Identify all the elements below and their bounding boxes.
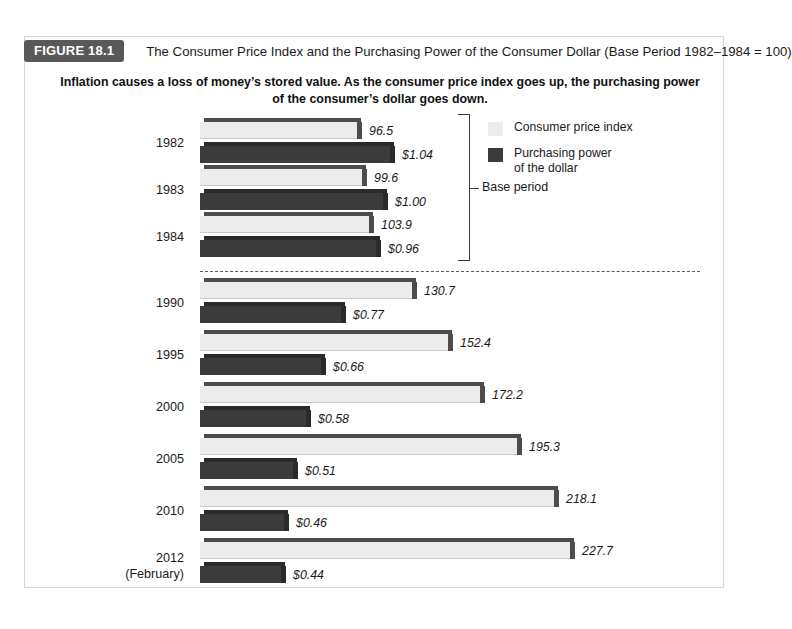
- bar-consumer-price-index: [200, 538, 570, 555]
- year-label-line1: 1984: [156, 230, 184, 244]
- bar-value-consumer-price-index: 96.5: [369, 124, 393, 138]
- year-label-line2: (February): [104, 567, 184, 583]
- bar-value-purchasing-power: $0.51: [305, 464, 336, 478]
- bar-consumer-price-index: [200, 278, 412, 295]
- bar-purchasing-power: [200, 510, 284, 527]
- bar-end-cap: [341, 306, 346, 323]
- bar-end-cap: [570, 542, 575, 559]
- bar-value-consumer-price-index: 99.6: [374, 171, 398, 185]
- bar-chart: 96.5$1.04198299.6$1.001983103.9$0.961984…: [24, 36, 724, 588]
- year-label-line1: 1983: [156, 183, 184, 197]
- bar-front-face: [200, 566, 281, 583]
- legend-item-purchasing-power: Purchasing power of the dollar: [488, 146, 633, 177]
- legend-swatch-dark: [488, 148, 503, 162]
- bar-value-purchasing-power: $1.00: [395, 195, 426, 209]
- bar-front-face: [200, 514, 284, 531]
- base-period-bracket: [458, 114, 470, 261]
- bar-value-purchasing-power: $0.77: [353, 308, 384, 322]
- bar-value-purchasing-power: $0.58: [318, 412, 349, 426]
- bar-end-cap: [306, 410, 311, 427]
- bar-value-purchasing-power: $0.46: [296, 516, 327, 530]
- bar-purchasing-power: [200, 142, 390, 159]
- bar-value-consumer-price-index: 195.3: [529, 440, 560, 454]
- bar-end-cap: [369, 216, 374, 233]
- bar-front-face: [200, 410, 306, 427]
- bar-consumer-price-index: [200, 330, 448, 347]
- bar-front-face: [200, 216, 369, 233]
- bar-front-face: [200, 240, 376, 257]
- bar-value-purchasing-power: $0.66: [333, 360, 364, 374]
- bar-end-cap: [284, 514, 289, 531]
- year-label: 1984: [104, 230, 184, 246]
- bar-value-consumer-price-index: 152.4: [460, 336, 491, 350]
- bar-purchasing-power: [200, 189, 383, 206]
- legend-item-consumer-price-index: Consumer price index: [488, 120, 633, 136]
- bar-end-cap: [480, 386, 485, 403]
- legend-label-consumer-price-index: Consumer price index: [514, 120, 633, 136]
- bar-front-face: [200, 146, 390, 163]
- legend-swatch-light: [488, 122, 503, 136]
- legend-label-purchasing-power: Purchasing power of the dollar: [514, 146, 633, 177]
- year-label-line1: 2005: [156, 452, 184, 466]
- bar-value-consumer-price-index: 130.7: [424, 284, 455, 298]
- bar-front-face: [200, 542, 570, 559]
- bar-purchasing-power: [200, 302, 341, 319]
- base-period-divider: [200, 271, 700, 272]
- bar-front-face: [200, 282, 412, 299]
- year-label: 1982: [104, 136, 184, 152]
- bar-front-face: [200, 438, 517, 455]
- bar-end-cap: [448, 334, 453, 351]
- bar-front-face: [200, 334, 448, 351]
- year-label-line1: 2000: [156, 400, 184, 414]
- year-label: 1990: [104, 296, 184, 312]
- year-label-line1: 1995: [156, 348, 184, 362]
- year-label-line1: 1982: [156, 136, 184, 150]
- bar-value-purchasing-power: $1.04: [402, 148, 433, 162]
- bar-front-face: [200, 169, 362, 186]
- year-label: 2010: [104, 504, 184, 520]
- bar-value-purchasing-power: $0.96: [388, 242, 419, 256]
- bar-purchasing-power: [200, 458, 293, 475]
- bar-end-cap: [390, 146, 395, 163]
- bar-end-cap: [517, 438, 522, 455]
- bar-end-cap: [412, 282, 417, 299]
- base-period-bracket-tick: [470, 188, 479, 189]
- bar-end-cap: [376, 240, 381, 257]
- bar-value-purchasing-power: $0.44: [293, 568, 324, 582]
- chart-legend: Consumer price index Purchasing power of…: [488, 120, 633, 187]
- year-label-line1: 2012: [156, 551, 184, 565]
- bar-front-face: [200, 386, 480, 403]
- bar-end-cap: [383, 193, 388, 210]
- bar-end-cap: [554, 490, 559, 507]
- bar-value-consumer-price-index: 103.9: [381, 218, 412, 232]
- bar-end-cap: [281, 566, 286, 583]
- bar-front-face: [200, 358, 321, 375]
- bar-end-cap: [293, 462, 298, 479]
- bar-purchasing-power: [200, 562, 281, 579]
- bar-consumer-price-index: [200, 434, 517, 451]
- year-label-line1: 2010: [156, 504, 184, 518]
- bar-purchasing-power: [200, 354, 321, 371]
- bar-end-cap: [357, 122, 362, 139]
- bar-purchasing-power: [200, 406, 306, 423]
- year-label: 2012(February): [104, 551, 184, 582]
- bar-consumer-price-index: [200, 486, 554, 503]
- bar-consumer-price-index: [200, 382, 480, 399]
- bar-consumer-price-index: [200, 212, 369, 229]
- bar-end-cap: [321, 358, 326, 375]
- bar-front-face: [200, 122, 357, 139]
- bar-front-face: [200, 193, 383, 210]
- bar-consumer-price-index: [200, 118, 357, 135]
- bar-value-consumer-price-index: 218.1: [566, 492, 597, 506]
- bar-purchasing-power: [200, 236, 376, 253]
- year-label: 2005: [104, 452, 184, 468]
- bar-value-consumer-price-index: 172.2: [492, 388, 523, 402]
- bar-front-face: [200, 306, 341, 323]
- year-label: 1983: [104, 183, 184, 199]
- bar-end-cap: [362, 169, 367, 186]
- bar-value-consumer-price-index: 227.7: [582, 544, 613, 558]
- year-label: 1995: [104, 348, 184, 364]
- bar-front-face: [200, 490, 554, 507]
- bar-front-face: [200, 462, 293, 479]
- year-label: 2000: [104, 400, 184, 416]
